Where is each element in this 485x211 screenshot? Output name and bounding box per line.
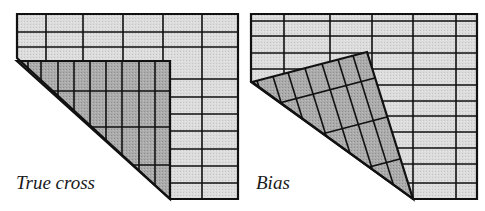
bias-label: Bias (256, 173, 290, 192)
fabric-grain-diagram: True cross Bias (0, 0, 485, 211)
true-cross-label: True cross (16, 173, 95, 192)
